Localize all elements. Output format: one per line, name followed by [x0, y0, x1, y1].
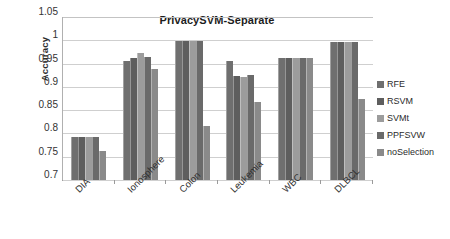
y-axis-tick-label: 1.05 [18, 7, 58, 17]
legend-swatch-icon [377, 81, 384, 88]
legend-item[interactable]: RSVM [377, 93, 447, 110]
bar[interactable] [196, 41, 203, 180]
bar[interactable] [85, 137, 92, 180]
bar[interactable] [240, 77, 247, 180]
chart-legend: RFERSVMSVMtPPFSVWnoSelection [377, 76, 447, 161]
chart-container: Accuracy 1.0510.950.90.850.80.750.7 Priv… [0, 0, 450, 239]
plot-area [62, 17, 373, 181]
bar[interactable] [130, 58, 137, 180]
bar[interactable] [189, 41, 196, 180]
y-axis-tick-label: 0.75 [18, 147, 58, 157]
bar[interactable] [292, 58, 299, 180]
bar[interactable] [233, 76, 240, 180]
bar[interactable] [123, 61, 130, 180]
legend-label: RFE [387, 80, 405, 89]
bar[interactable] [351, 42, 358, 180]
bar-group [175, 17, 210, 180]
y-axis-tick-label: 0.95 [18, 54, 58, 64]
legend-item[interactable]: PPFSVW [377, 127, 447, 144]
bar[interactable] [99, 151, 106, 180]
bar[interactable] [299, 58, 306, 180]
legend-label: SVMt [387, 114, 409, 123]
y-axis-tick-label: 0.9 [18, 77, 58, 87]
legend-item[interactable]: RFE [377, 76, 447, 93]
bar-group [71, 17, 106, 180]
bar-group [278, 17, 313, 180]
y-axis-tick-labels: 1.0510.950.90.850.80.750.7 [18, 12, 58, 180]
bar[interactable] [330, 42, 337, 180]
bar[interactable] [278, 58, 285, 180]
bars-layer [63, 17, 373, 180]
bar[interactable] [337, 42, 344, 180]
bar-group [226, 17, 261, 180]
bar[interactable] [175, 41, 182, 180]
bar[interactable] [137, 53, 144, 180]
legend-label: noSelection [387, 148, 434, 157]
legend-swatch-icon [377, 132, 384, 139]
bar[interactable] [71, 137, 78, 180]
bar-group [330, 17, 365, 180]
bar[interactable] [285, 58, 292, 180]
y-axis-tick-label: 0.85 [18, 100, 58, 110]
bar[interactable] [358, 99, 365, 180]
bar-group [123, 17, 158, 180]
bar[interactable] [203, 126, 210, 180]
bar[interactable] [92, 137, 99, 180]
legend-swatch-icon [377, 115, 384, 122]
legend-label: RSVM [387, 97, 413, 106]
x-axis-labels: DIAIonosphereColonLeukemiaWBCDLBCL [0, 183, 450, 239]
y-axis-tick-label: 0.8 [18, 123, 58, 133]
bar[interactable] [78, 137, 85, 180]
legend-swatch-icon [377, 149, 384, 156]
legend-swatch-icon [377, 98, 384, 105]
y-axis-tick-label: 0.7 [18, 170, 58, 180]
legend-label: PPFSVW [387, 131, 425, 140]
bar[interactable] [226, 61, 233, 180]
gridline [63, 180, 373, 181]
bar[interactable] [306, 58, 313, 180]
bar[interactable] [182, 41, 189, 180]
y-axis-tick-label: 1 [18, 30, 58, 40]
bar[interactable] [344, 42, 351, 180]
legend-item[interactable]: SVMt [377, 110, 447, 127]
legend-item[interactable]: noSelection [377, 144, 447, 161]
